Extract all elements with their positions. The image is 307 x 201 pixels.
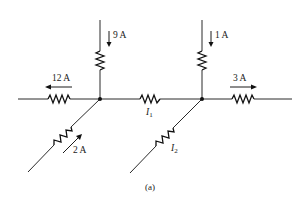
diagonal-branch-left <box>28 99 100 172</box>
circuit-diagram <box>0 0 307 201</box>
arrow-down-1a-icon <box>209 31 214 47</box>
figure-caption: (a) <box>145 182 155 192</box>
resistor-right <box>232 95 254 103</box>
resistor-left <box>48 95 70 103</box>
resistor-vertical-left <box>96 51 104 70</box>
vertical-branch-left <box>96 20 104 99</box>
label-3a: 3 A <box>233 74 246 84</box>
arrow-right-3a-icon <box>230 85 257 90</box>
label-1a: 1 A <box>215 31 228 41</box>
diagonal-branch-right <box>130 99 202 173</box>
resistor-diagonal-left <box>54 127 72 145</box>
arrow-left-12a-icon <box>45 85 72 90</box>
label-i1: I1 <box>146 108 153 118</box>
label-9a: 9 A <box>113 31 126 41</box>
resistor-vertical-right <box>198 51 206 70</box>
label-2a: 2 A <box>73 146 86 156</box>
label-i1-sub: 1 <box>149 111 153 119</box>
arrow-down-9a-icon <box>107 31 112 47</box>
label-12a: 12 A <box>52 74 70 84</box>
label-i2-sub: 2 <box>174 147 178 155</box>
junction-node-right <box>200 97 204 101</box>
vertical-branch-right <box>198 20 206 99</box>
junction-node-left <box>98 97 102 101</box>
label-i2: I2 <box>171 144 178 154</box>
resistor-middle <box>140 95 160 103</box>
